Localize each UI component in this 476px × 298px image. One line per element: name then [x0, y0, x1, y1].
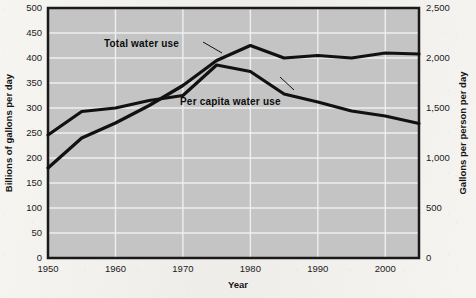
- y-left-tick-label: 500: [26, 2, 42, 13]
- x-axis-tick-labels: 195019601970198019902000: [37, 263, 395, 274]
- chart-figure: 050100150200250300350400450500 05001,000…: [0, 0, 476, 298]
- x-tick-label: 1990: [307, 263, 328, 274]
- x-tick-label: 1960: [105, 263, 126, 274]
- y-left-tick-label: 50: [31, 227, 42, 238]
- x-axis-title: Year: [228, 279, 248, 290]
- y-left-tick-label: 250: [26, 127, 42, 138]
- x-tick-label: 1950: [37, 263, 58, 274]
- y-right-tick-label: 500: [426, 202, 442, 213]
- y-right-tick-label: 2,500: [426, 2, 450, 13]
- y-left-tick-label: 200: [26, 152, 42, 163]
- water-use-line-chart: 050100150200250300350400450500 05001,000…: [0, 0, 476, 298]
- x-tick-label: 1980: [240, 263, 261, 274]
- y-left-tick-label: 150: [26, 177, 42, 188]
- series-annotation-total-water-use: Total water use: [104, 38, 179, 49]
- y-axis-left-title: Billions of gallons per day: [3, 73, 14, 192]
- series-annotation-per-capita-water-use: Per capita water use: [180, 96, 281, 107]
- y-axis-right-tick-labels: 05001,0001,5002,0002,500: [426, 2, 450, 263]
- y-right-tick-label: 1,000: [426, 152, 450, 163]
- y-right-tick-label: 0: [426, 252, 431, 263]
- y-right-tick-label: 2,000: [426, 52, 450, 63]
- y-right-tick-label: 1,500: [426, 102, 450, 113]
- y-left-tick-label: 350: [26, 77, 42, 88]
- y-left-tick-label: 450: [26, 27, 42, 38]
- y-left-tick-label: 100: [26, 202, 42, 213]
- y-left-tick-label: 300: [26, 102, 42, 113]
- y-left-tick-label: 400: [26, 52, 42, 63]
- x-tick-label: 2000: [375, 263, 396, 274]
- y-axis-right-title: Gallons per person per day: [457, 71, 468, 195]
- y-axis-left-tick-labels: 050100150200250300350400450500: [26, 2, 42, 263]
- y-left-tick-label: 0: [37, 252, 42, 263]
- x-tick-label: 1970: [172, 263, 193, 274]
